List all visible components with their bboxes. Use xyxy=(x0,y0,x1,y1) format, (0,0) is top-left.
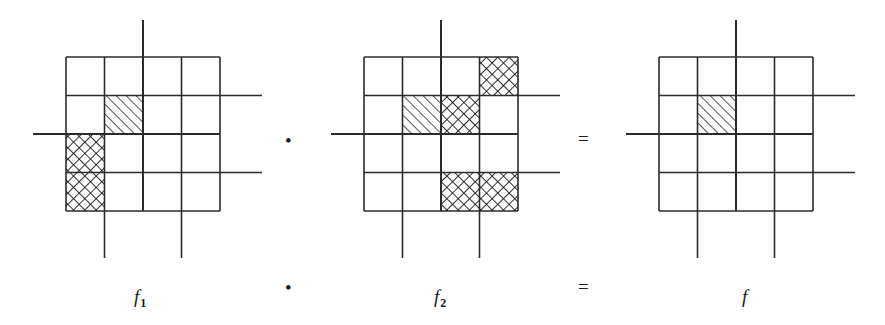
panel-f2 xyxy=(331,20,560,258)
grid-cell-crosshatch xyxy=(480,57,519,96)
op-dot-top: • xyxy=(285,131,292,150)
grid-cell-diagonal xyxy=(105,96,144,135)
op-equals-top: = xyxy=(578,129,589,148)
op-equals-bottom: = xyxy=(578,277,589,296)
label-subscript: 2 xyxy=(439,296,446,310)
panel-f1-label: f1 xyxy=(134,287,146,309)
panel-f2-label: f2 xyxy=(434,287,446,309)
grid-cell-crosshatch xyxy=(441,96,480,135)
grid-cell-diagonal xyxy=(403,96,442,135)
label-subscript: 1 xyxy=(139,296,146,310)
panel-f-label: f xyxy=(742,287,747,306)
grid-cell-crosshatch xyxy=(441,173,480,212)
grid-cell-crosshatch xyxy=(66,173,105,212)
panel-f xyxy=(626,20,855,258)
figure-canvas xyxy=(0,0,885,325)
math-figure-product-of-functions: •=•= f1f2f xyxy=(0,0,885,325)
label-base: f xyxy=(742,286,747,307)
grid-panels xyxy=(33,20,855,258)
grid-cell-crosshatch xyxy=(480,173,519,212)
op-dot-bottom: • xyxy=(285,278,292,297)
grid-cell-diagonal xyxy=(698,96,737,135)
grid-cell-crosshatch xyxy=(66,134,105,173)
panel-f1 xyxy=(33,20,262,258)
